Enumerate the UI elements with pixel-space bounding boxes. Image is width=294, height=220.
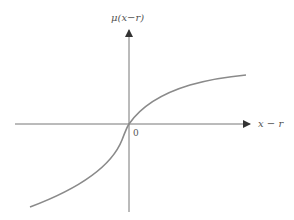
utility-curve	[30, 75, 246, 207]
origin-label: 0	[133, 128, 139, 138]
plot-canvas	[0, 0, 294, 220]
y-axis-label: μ(x−r)	[111, 12, 144, 23]
x-axis-label: x − r	[258, 118, 283, 129]
